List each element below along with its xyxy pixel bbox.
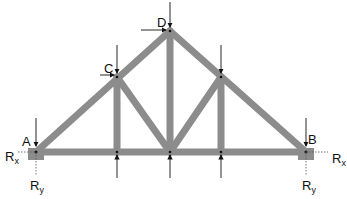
node-label-d: D bbox=[157, 16, 166, 29]
truss-diagram bbox=[0, 0, 347, 199]
reaction-right-y: Ry bbox=[302, 179, 316, 192]
reaction-left-y: Ry bbox=[30, 179, 44, 192]
reaction-lines bbox=[18, 152, 328, 176]
truss-members bbox=[36, 31, 306, 152]
reaction-left-x: Rx bbox=[5, 150, 19, 163]
node-label-c: C bbox=[104, 62, 113, 75]
reaction-right-x: Rx bbox=[332, 152, 346, 165]
node-label-b: B bbox=[308, 133, 317, 146]
node-label-a: A bbox=[22, 135, 31, 148]
